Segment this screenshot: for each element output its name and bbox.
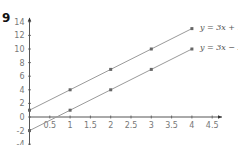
data-point-marker — [28, 109, 31, 112]
x-tick-label: 4.5 — [206, 121, 219, 130]
x-tick-label: 2 — [108, 121, 113, 130]
x-tick-label: 1 — [68, 121, 73, 130]
data-point-marker — [109, 68, 112, 71]
y-axis-arrow-icon — [28, 17, 32, 21]
x-tick-label: 3 — [149, 121, 154, 130]
y-tick-label: 4 — [19, 86, 24, 95]
data-point-marker — [109, 88, 112, 91]
x-tick-label: 3.5 — [165, 121, 178, 130]
data-point-marker — [28, 129, 31, 132]
y-tick-label: -4 — [17, 140, 25, 145]
y-tick-label: -2 — [17, 127, 25, 136]
data-point-marker — [69, 88, 72, 91]
y-tick-label: 6 — [19, 72, 24, 81]
data-point-marker — [69, 109, 72, 112]
x-tick-label: 1.5 — [84, 121, 97, 130]
y-tick-label: 0 — [19, 113, 24, 122]
series-label: y = 3x − 2 — [199, 43, 238, 52]
data-point-marker — [190, 27, 193, 30]
series-label: y = 3x + 1 — [199, 23, 238, 32]
y-tick-label: 12 — [14, 31, 24, 40]
data-point-marker — [150, 68, 153, 71]
y-tick-label: 14 — [14, 18, 24, 27]
data-point-marker — [190, 48, 193, 51]
x-axis-arrow-icon — [218, 115, 222, 119]
line-chart: -4-2024681012140.511.522.533.544.5y = 3x… — [0, 0, 238, 145]
x-tick-label: 2.5 — [125, 121, 138, 130]
x-tick-label: 4 — [189, 121, 194, 130]
y-tick-label: 10 — [14, 45, 24, 54]
y-tick-label: 2 — [19, 99, 24, 108]
data-point-marker — [150, 48, 153, 51]
y-tick-label: 8 — [19, 59, 24, 68]
